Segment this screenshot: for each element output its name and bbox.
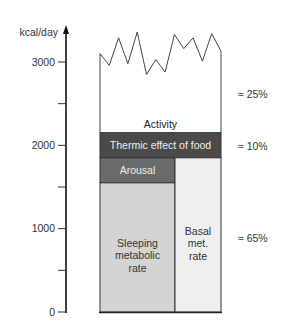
percent-annotation: ≈ 65%	[238, 232, 268, 244]
basal-metabolic-rate-label: Basal	[185, 225, 211, 237]
sleeping-metabolic-rate-label: Sleeping	[117, 237, 158, 249]
y-tick-label: 2000	[32, 139, 56, 151]
activity-label: Activity	[144, 118, 178, 130]
sleeping-metabolic-rate-label: rate	[128, 262, 146, 274]
arousal-label: Arousal	[120, 164, 156, 176]
percent-annotation: ≈ 25%	[238, 88, 268, 100]
y-tick-label: 3000	[32, 56, 56, 68]
y-axis-label: kcal/day	[19, 26, 58, 38]
basal-metabolic-rate-label: met.	[188, 237, 208, 249]
basal-metabolic-rate-label: rate	[189, 250, 207, 262]
y-tick-label: 1000	[32, 222, 56, 234]
y-tick-label: 0	[49, 306, 55, 318]
energy-expenditure-chart: 0100020003000kcal/day ActivityThermic ef…	[0, 0, 284, 333]
y-axis-arrow-icon	[63, 25, 69, 34]
thermic-effect-label: Thermic effect of food	[110, 139, 212, 151]
percent-annotation: ≈ 10%	[238, 140, 268, 152]
sleeping-metabolic-rate-label: metabolic	[115, 249, 160, 261]
